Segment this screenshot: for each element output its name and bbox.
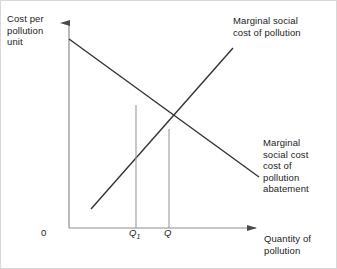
x-tick-q1: Q1 (129, 227, 140, 240)
curve-marginal-social-cost-of-pollution (91, 48, 233, 209)
curve-label-marginal-social-cost-of-pollution: Marginal social cost of pollution (233, 15, 337, 38)
x-tick-q: Q (164, 227, 171, 238)
economics-diagram: Cost per pollution unit Quantity of poll… (0, 0, 337, 269)
y-axis-title: Cost per pollution unit (7, 13, 67, 48)
x-tick-q1-subscript: 1 (136, 233, 140, 240)
x-tick-origin: 0 (41, 227, 46, 238)
curve-label-marginal-social-cost-of-pollution-abatement: Marginal social cost cost of pollution a… (263, 137, 337, 195)
x-axis-title: Quantity of pollution (264, 233, 336, 256)
curve-marginal-social-cost-of-pollution-abatement (69, 39, 259, 177)
